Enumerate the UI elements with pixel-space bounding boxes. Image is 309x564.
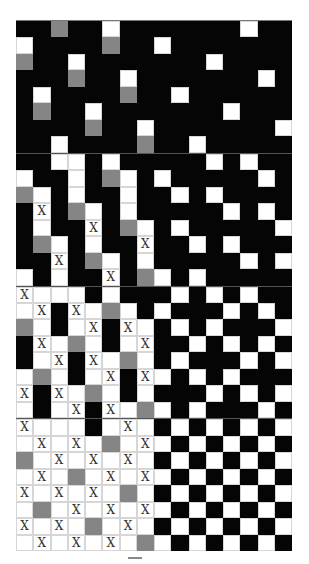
grid-cell [33, 485, 50, 501]
panel-4: XXXXXXXXXXXXXXXXXXXXXXX [16, 418, 292, 551]
grid-cell [275, 369, 292, 385]
grid-cell [51, 220, 68, 236]
grid-cell [16, 352, 33, 368]
grid-cell [258, 220, 275, 236]
grid-cell [51, 336, 68, 352]
grid-cell [68, 21, 85, 37]
grid-cell [33, 54, 50, 70]
grid-cell [189, 436, 206, 452]
grid-cell [33, 170, 50, 186]
grid-cell [85, 37, 102, 53]
grid-cell [137, 253, 154, 269]
grid-cell [206, 385, 223, 401]
grid-cell [16, 303, 33, 319]
grid-cell [137, 518, 154, 534]
grid-cell: X [68, 303, 85, 319]
grid-cell [206, 319, 223, 335]
grid-cell [16, 220, 33, 236]
grid-cell [258, 352, 275, 368]
grid-cell [85, 535, 102, 551]
grid-cell [189, 269, 206, 285]
grid-cell [120, 70, 137, 86]
grid-cell [206, 170, 223, 186]
grid-cell [120, 402, 137, 418]
grid-cell [275, 70, 292, 86]
grid-cell [85, 21, 102, 37]
grid-cell [120, 369, 137, 385]
grid-cell [33, 154, 50, 170]
grid-cell [102, 236, 119, 252]
grid-cell [171, 203, 188, 219]
grid-cell [240, 170, 257, 186]
grid-cell [275, 352, 292, 368]
grid-cell [189, 319, 206, 335]
grid-cell [189, 469, 206, 485]
grid-cell [223, 236, 240, 252]
caption-mark [128, 557, 142, 559]
grid-cell [275, 236, 292, 252]
grid-cell [189, 535, 206, 551]
grid-cell [85, 436, 102, 452]
grid-cell [240, 452, 257, 468]
grid-cell [16, 452, 33, 468]
grid-cell [154, 385, 171, 401]
grid-cell [33, 319, 50, 335]
grid-cell [171, 136, 188, 152]
grid-cell: X [16, 287, 33, 303]
grid-cell [189, 303, 206, 319]
grid-cell [154, 103, 171, 119]
grid-cell [223, 385, 240, 401]
grid-cell [85, 385, 102, 401]
grid-cell [171, 469, 188, 485]
grid-cell [258, 203, 275, 219]
grid-cell [33, 352, 50, 368]
grid-cell [171, 287, 188, 303]
grid-cell [206, 21, 223, 37]
grid-cell [275, 37, 292, 53]
grid-cell [16, 336, 33, 352]
grid-cell [102, 203, 119, 219]
grid-cell [68, 154, 85, 170]
grid-cell [33, 402, 50, 418]
grid-cell [137, 535, 154, 551]
grid-cell [240, 336, 257, 352]
grid-cell [85, 203, 102, 219]
grid-cell [275, 452, 292, 468]
grid-cell [154, 87, 171, 103]
grid-cell [137, 303, 154, 319]
grid-cell [240, 436, 257, 452]
grid-cell [16, 170, 33, 186]
grid-cell [68, 485, 85, 501]
grid-cell [154, 402, 171, 418]
grid-cell [223, 70, 240, 86]
grid-cell [154, 253, 171, 269]
grid-cell [137, 136, 154, 152]
grid-cell: X [33, 203, 50, 219]
grid-cell [154, 120, 171, 136]
grid-cell [137, 203, 154, 219]
grid-cell [85, 54, 102, 70]
grid-cell [16, 187, 33, 203]
grid-cell [120, 535, 137, 551]
grid-cell [51, 319, 68, 335]
grid-cell [223, 485, 240, 501]
grid-cell [85, 154, 102, 170]
grid-cell [189, 54, 206, 70]
grid-cell [258, 21, 275, 37]
grid-cell [275, 485, 292, 501]
grid-cell [275, 253, 292, 269]
grid-cell [68, 136, 85, 152]
grid-cell [206, 220, 223, 236]
grid-cell [223, 37, 240, 53]
grid-cell: X [16, 419, 33, 435]
grid-cell [85, 120, 102, 136]
grid-cell [16, 87, 33, 103]
grid-cell [189, 187, 206, 203]
grid-cell [275, 203, 292, 219]
grid-cell [206, 287, 223, 303]
grid-cell [206, 518, 223, 534]
grid-cell [240, 21, 257, 37]
grid-cell [189, 485, 206, 501]
grid-cell [51, 203, 68, 219]
grid-cell [189, 70, 206, 86]
